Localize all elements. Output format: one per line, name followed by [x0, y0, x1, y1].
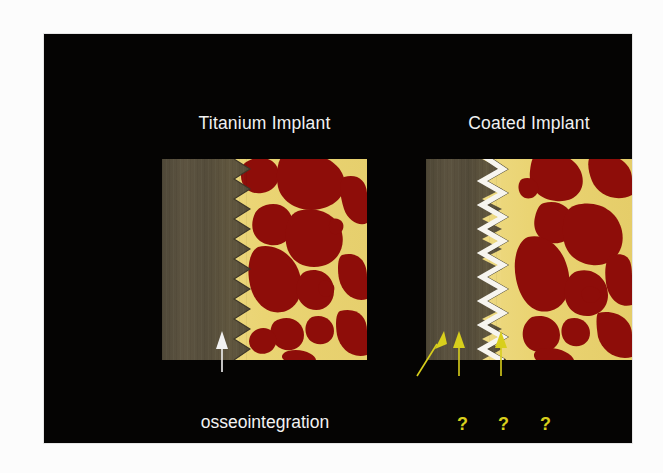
osseointegration-label: osseointegration [170, 412, 360, 433]
question-mark-1: ? [457, 415, 468, 433]
question-mark-3: ? [540, 415, 551, 433]
implant-figure-coated [426, 159, 632, 360]
presentation-slide: Titanium Implant [44, 34, 632, 443]
titanium-implant-illustration [162, 159, 367, 360]
implant-figure-titanium [162, 159, 367, 360]
panel-title-titanium: Titanium Implant [162, 113, 367, 134]
implant-body [162, 159, 250, 360]
coated-implant-illustration [426, 159, 632, 360]
question-mark-2: ? [498, 415, 509, 433]
slide-page: Titanium Implant [0, 0, 663, 473]
panel-title-coated: Coated Implant [426, 113, 632, 134]
